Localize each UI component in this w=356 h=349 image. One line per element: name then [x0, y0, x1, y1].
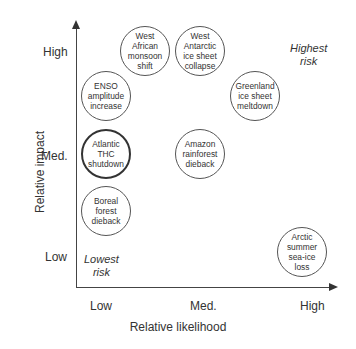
node-atlantic-thc-shutdown: Atlantic THC shutdown: [81, 129, 131, 179]
x-axis: [76, 287, 330, 288]
y-axis: [76, 28, 77, 287]
x-tick-low: Low: [90, 299, 112, 313]
node-amazon-rainforest: Amazon rainforest dieback: [175, 129, 225, 179]
x-axis-arrow-icon: [329, 283, 338, 291]
node-greenland-ice-sheet: Greenland ice sheet meltdown: [230, 71, 280, 121]
node-west-african-monsoon: West African monsoon shift: [120, 26, 170, 76]
highest-risk-annotation: Highest risk: [290, 42, 327, 68]
y-axis-label: Relative impact: [33, 112, 47, 232]
node-west-antarctic-ice-sheet: West Antarctic ice sheet collapse: [175, 26, 225, 76]
x-tick-high: High: [300, 299, 325, 313]
y-tick-low: Low: [45, 250, 67, 264]
lowest-risk-annotation: Lowest risk: [84, 253, 119, 279]
x-tick-med: Med.: [190, 299, 217, 313]
y-axis-arrow-icon: [72, 20, 80, 29]
node-enso-amplitude: ENSO amplitude increase: [81, 71, 131, 121]
node-boreal-forest: Boreal forest dieback: [81, 186, 131, 236]
y-tick-high: High: [43, 45, 68, 59]
node-arctic-sea-ice: Arctic summer sea-ice loss: [277, 227, 327, 277]
x-axis-label: Relative likelihood: [0, 320, 356, 334]
